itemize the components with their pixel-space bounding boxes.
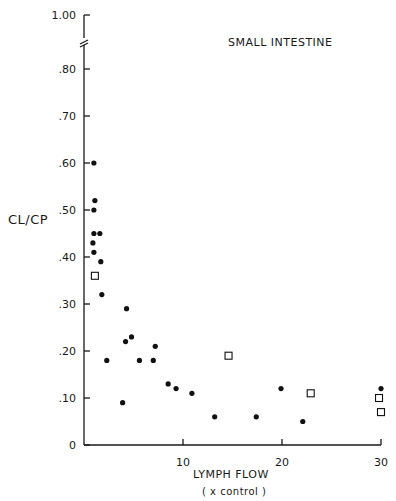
data-point-circle (137, 358, 142, 363)
data-point-square (91, 272, 98, 279)
y-tick-label: .50 (59, 204, 77, 217)
data-point-circle (173, 386, 178, 391)
data-point-circle (91, 160, 96, 165)
data-point-circle (166, 381, 171, 386)
data-point-circle (300, 419, 305, 424)
data-point-circle (153, 344, 158, 349)
x-tick-label: 20 (275, 456, 289, 469)
y-axis-label: CL/CP (8, 212, 48, 227)
x-axis-label: LYMPH FLOW (193, 468, 269, 481)
y-tick-label: 0 (69, 439, 76, 452)
data-point-circle (129, 334, 134, 339)
x-axis-sublabel: ( x control ) (202, 486, 266, 497)
scatter-chart: 0.10.20.30.40.50.60.70.801.00102030 (0, 0, 396, 501)
data-point-square (378, 409, 385, 416)
data-point-circle (99, 292, 104, 297)
x-tick-label: 10 (176, 456, 190, 469)
data-point-square (376, 395, 383, 402)
y-tick-label: .20 (59, 345, 77, 358)
data-point-circle (124, 306, 129, 311)
data-point-circle (254, 414, 259, 419)
data-point-square (307, 390, 314, 397)
data-point-circle (212, 414, 217, 419)
data-point-circle (90, 240, 95, 245)
y-tick-label: .80 (59, 63, 77, 76)
data-point-square (225, 352, 232, 359)
data-point-circle (123, 339, 128, 344)
data-point-circle (120, 400, 125, 405)
y-tick-label: 1.00 (52, 9, 77, 22)
axes: 0.10.20.30.40.50.60.70.801.00102030 (52, 9, 389, 469)
y-tick-label: .10 (59, 392, 77, 405)
data-point-circle (278, 386, 283, 391)
y-tick-label: .30 (59, 298, 77, 311)
data-points (90, 160, 384, 424)
y-tick-label: .70 (59, 110, 77, 123)
data-point-circle (98, 259, 103, 264)
data-point-circle (97, 231, 102, 236)
y-tick-label: .40 (59, 251, 77, 264)
chart-title: SMALL INTESTINE (228, 36, 333, 49)
data-point-circle (91, 250, 96, 255)
data-point-circle (104, 358, 109, 363)
data-point-circle (92, 198, 97, 203)
x-tick-label: 30 (374, 456, 388, 469)
data-point-circle (378, 386, 383, 391)
data-point-circle (151, 358, 156, 363)
y-axis-label-text: CL/CP (8, 212, 48, 227)
data-point-circle (91, 231, 96, 236)
data-point-circle (189, 391, 194, 396)
data-point-circle (91, 207, 96, 212)
y-tick-label: .60 (59, 157, 77, 170)
